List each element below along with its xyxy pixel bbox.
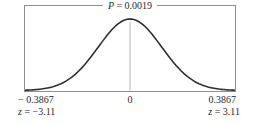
z-label-left: z = −3.11 — [18, 106, 55, 117]
x-tick-label-center: 0 — [24, 94, 236, 105]
z-label-right: z = 3.11 — [208, 106, 240, 117]
p-value-text: = 0.0019 — [114, 0, 152, 11]
z-value-right: = 3.11 — [212, 106, 240, 117]
x-tick-label-right: 0.3867 — [209, 94, 237, 105]
p-value-label: P = 0.0019 — [103, 0, 157, 12]
z-value-left: = −3.11 — [22, 106, 55, 117]
plot-box: P = 0.0019 — [24, 5, 236, 92]
bell-curve-svg — [25, 6, 235, 91]
normal-curve-figure: P = 0.0019 − 0.3867 0 0.3867 z = −3.11 z… — [0, 0, 253, 124]
